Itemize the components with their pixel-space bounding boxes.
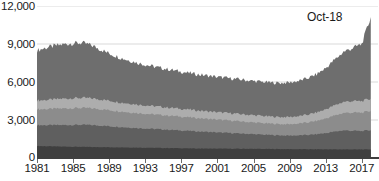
annotation-oct-18: Oct-18: [307, 11, 342, 24]
series-layers: [37, 17, 371, 158]
x-tick-label-1993: 1993: [133, 162, 158, 175]
y-tick-label-12000: 12,000: [1, 1, 35, 12]
x-tick-label-1989: 1989: [97, 162, 122, 175]
stacked-area-chart: 12,000 9,000 6,000 3,000 0 1981198519891…: [0, 0, 379, 181]
plot-svg: [37, 6, 378, 158]
x-axis: 1981198519891993199720012005200920132017: [37, 162, 378, 181]
x-tick-label-1997: 1997: [169, 162, 194, 175]
x-tick-label-2013: 2013: [313, 162, 338, 175]
y-tick-label-6000: 6,000: [1, 77, 35, 88]
y-tick-label-9000: 9,000: [1, 39, 35, 50]
x-tick-label-2009: 2009: [277, 162, 302, 175]
y-axis: 12,000 9,000 6,000 3,000 0: [0, 0, 35, 181]
x-tick-label-2005: 2005: [241, 162, 266, 175]
x-tick-label-2017: 2017: [349, 162, 374, 175]
x-tick-label-1985: 1985: [61, 162, 86, 175]
x-tick-label-2001: 2001: [205, 162, 230, 175]
plot-area: [37, 6, 378, 158]
y-tick-label-3000: 3,000: [1, 115, 35, 126]
x-tick-label-1981: 1981: [25, 162, 50, 175]
